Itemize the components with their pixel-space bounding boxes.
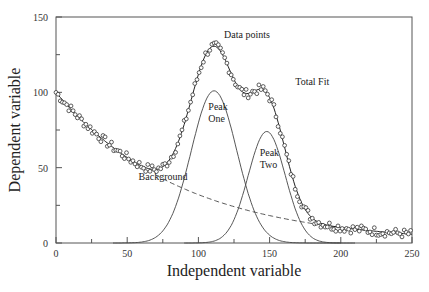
data-point	[65, 103, 69, 107]
data-point	[244, 88, 248, 92]
data-point	[225, 61, 229, 65]
data-point	[219, 46, 223, 50]
data-point	[272, 103, 276, 107]
y-tick-label: 0	[43, 238, 48, 249]
data-point	[184, 117, 188, 121]
data-point	[263, 89, 267, 93]
data-point	[270, 98, 274, 102]
data-point	[137, 160, 141, 164]
x-tick-label: 50	[122, 248, 132, 259]
data-point	[103, 135, 107, 139]
y-tick-label: 100	[33, 87, 48, 98]
data-point	[195, 78, 199, 82]
data-point	[180, 128, 184, 132]
y-tick-label: 150	[33, 12, 48, 23]
data-point	[370, 233, 374, 237]
data-point	[276, 125, 280, 129]
x-tick-label: 150	[262, 248, 277, 259]
data-point	[281, 135, 285, 139]
data-point	[287, 159, 291, 163]
data-point	[88, 125, 92, 129]
data-point	[80, 117, 84, 121]
data-points	[54, 41, 412, 239]
data-point	[293, 187, 297, 191]
data-point	[125, 151, 129, 155]
plot-frame: 050100150200250050100150	[33, 12, 420, 259]
data-point	[118, 149, 122, 153]
data-point	[325, 225, 329, 229]
data-point	[240, 87, 244, 91]
data-point	[266, 92, 270, 96]
data-point	[261, 85, 265, 89]
data-point	[67, 109, 71, 113]
annotation-label: Data points	[224, 29, 270, 40]
data-point	[199, 66, 203, 70]
data-point	[255, 92, 259, 96]
data-point	[364, 227, 368, 231]
data-point	[409, 229, 413, 233]
data-point	[69, 104, 73, 108]
data-point	[135, 165, 139, 169]
data-point	[99, 140, 103, 144]
data-point	[400, 235, 404, 239]
data-point	[84, 122, 88, 126]
annotation-label: Peak	[260, 147, 279, 158]
data-point	[231, 77, 235, 81]
data-point	[197, 71, 201, 75]
data-point	[150, 164, 154, 168]
x-tick-label: 0	[54, 248, 59, 259]
data-point	[274, 115, 278, 119]
data-point	[110, 140, 114, 144]
data-point	[257, 83, 261, 87]
data-point	[56, 92, 60, 96]
data-point	[355, 225, 359, 229]
data-point	[394, 227, 398, 231]
data-point	[146, 163, 150, 167]
data-point	[407, 232, 411, 236]
x-tick-label: 250	[405, 248, 420, 259]
annotation-label: Background	[139, 171, 188, 182]
data-point	[317, 221, 321, 225]
data-point	[95, 132, 99, 136]
data-point	[191, 93, 195, 97]
x-tick-label: 100	[191, 248, 206, 259]
annotation-label: Total Fit	[295, 76, 329, 87]
data-point	[165, 164, 169, 168]
peak-one-curve	[113, 91, 341, 243]
data-point	[328, 221, 332, 225]
plot-border	[56, 17, 412, 243]
data-point	[208, 49, 212, 53]
data-point	[334, 229, 338, 233]
data-point	[229, 73, 233, 77]
data-point	[71, 109, 75, 113]
annotation-label: One	[208, 113, 225, 124]
data-point	[246, 96, 250, 100]
data-point	[336, 224, 340, 228]
data-point	[347, 227, 351, 231]
data-point	[193, 82, 197, 86]
data-point	[189, 100, 193, 104]
y-axis-title: Dependent variable	[6, 68, 24, 193]
data-point	[167, 161, 171, 165]
data-point	[291, 175, 295, 179]
data-point	[349, 231, 353, 235]
data-point	[372, 226, 376, 230]
data-point	[310, 216, 314, 220]
annotation-label: Peak	[208, 101, 227, 112]
data-point	[383, 234, 387, 238]
data-point	[296, 195, 300, 199]
data-point	[174, 151, 178, 155]
data-point	[123, 157, 127, 161]
data-point	[242, 93, 246, 97]
data-point	[306, 209, 310, 213]
data-point	[221, 51, 225, 55]
annotations: Data pointsTotal FitPeakOnePeakTwoBackgr…	[139, 29, 330, 182]
data-point	[223, 56, 227, 60]
x-axis-title: Independent variable	[167, 262, 302, 280]
data-point	[176, 142, 180, 146]
data-point	[283, 144, 287, 148]
data-point	[178, 134, 182, 138]
x-tick-label: 200	[333, 248, 348, 259]
data-point	[206, 53, 210, 57]
data-point	[357, 229, 361, 233]
